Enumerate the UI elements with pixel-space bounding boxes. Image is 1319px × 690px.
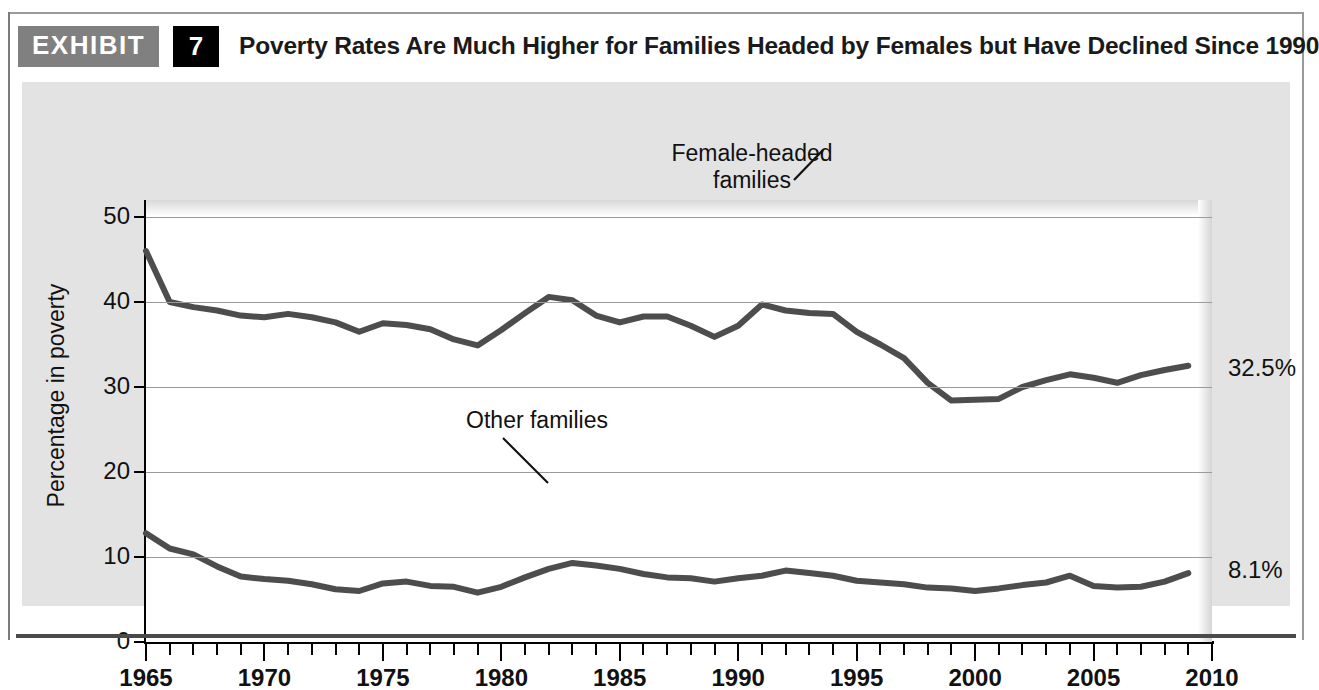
x-axis-tick-major: [145, 644, 147, 661]
x-axis-tick-minor: [477, 644, 479, 655]
female-end-value-label: 32.5%: [1228, 354, 1296, 382]
x-axis-tick-minor: [761, 644, 763, 655]
x-axis-tick-minor: [714, 644, 716, 655]
x-axis-tick-major: [619, 644, 621, 661]
x-axis-tick-minor: [429, 644, 431, 655]
x-axis-tick-label: 1965: [119, 664, 172, 690]
y-axis-tick-label: 0: [80, 627, 130, 655]
female-label-line1: Female-headed: [622, 140, 882, 167]
female-headed-families-line: [146, 251, 1188, 401]
gridline-y: [146, 217, 1212, 218]
x-axis-tick-minor: [785, 644, 787, 655]
y-axis-tick: [134, 216, 146, 218]
gridline-y: [146, 557, 1212, 558]
x-axis-tick-minor: [950, 644, 952, 655]
x-axis-tick-label: 1980: [475, 664, 528, 690]
x-axis-tick-minor: [1069, 644, 1071, 655]
x-axis-tick-minor: [1187, 644, 1189, 655]
y-axis-tick: [134, 556, 146, 558]
bottom-divider-rule: [16, 634, 1296, 638]
y-axis-tick-label: 40: [80, 287, 130, 315]
x-axis-tick-minor: [879, 644, 881, 655]
x-axis-tick-major: [1093, 644, 1095, 661]
y-axis-tick: [134, 471, 146, 473]
frame-top-rule: [8, 12, 1304, 14]
x-axis-tick-label: 1985: [593, 664, 646, 690]
x-axis-tick-minor: [524, 644, 526, 655]
x-axis-tick-label: 1995: [830, 664, 883, 690]
x-axis-tick-minor: [903, 644, 905, 655]
x-axis-tick-minor: [453, 644, 455, 655]
x-axis-tick-label: 2010: [1185, 664, 1238, 690]
x-axis-tick-label: 2005: [1067, 664, 1120, 690]
x-axis-tick-minor: [1116, 644, 1118, 655]
exhibit-title: Poverty Rates Are Much Higher for Famili…: [239, 32, 1319, 60]
y-axis-tick-label: 10: [80, 542, 130, 570]
gridline-y: [146, 472, 1212, 473]
x-axis-tick-minor: [1045, 644, 1047, 655]
x-axis-tick-major: [1211, 644, 1213, 661]
x-axis-tick-major: [263, 644, 265, 661]
x-axis-tick-minor: [240, 644, 242, 655]
y-axis-tick-label: 30: [80, 372, 130, 400]
x-axis-tick-label: 2000: [948, 664, 1001, 690]
x-axis-tick-minor: [1021, 644, 1023, 655]
x-axis-tick-major: [500, 644, 502, 661]
y-axis-tick: [134, 641, 146, 643]
x-axis-tick-minor: [1140, 644, 1142, 655]
x-axis-tick-major: [382, 644, 384, 661]
x-axis-tick-label: 1990: [712, 664, 765, 690]
x-axis-tick-minor: [311, 644, 313, 655]
y-axis-tick-label: 50: [80, 202, 130, 230]
x-axis-tick-minor: [642, 644, 644, 655]
exhibit-number-badge: 7: [173, 26, 219, 67]
x-axis-tick-minor: [690, 644, 692, 655]
female-headed-families-label: Female-headed families: [622, 140, 882, 194]
gridline-y: [146, 302, 1212, 303]
x-axis-tick-minor: [335, 644, 337, 655]
x-axis-tick-major: [974, 644, 976, 661]
exhibit-header: EXHIBIT 7 Poverty Rates Are Much Higher …: [18, 24, 1319, 68]
x-axis-tick-minor: [927, 644, 929, 655]
y-axis-tick: [134, 386, 146, 388]
female-label-line2: families: [622, 167, 882, 194]
other-end-value-label: 8.1%: [1228, 556, 1283, 584]
x-axis-tick-minor: [216, 644, 218, 655]
y-axis-tick: [134, 301, 146, 303]
frame-left-rule: [8, 12, 10, 640]
x-axis-tick-minor: [169, 644, 171, 655]
x-axis-tick-minor: [808, 644, 810, 655]
plot-area: [146, 200, 1212, 642]
x-axis-tick-minor: [358, 644, 360, 655]
x-axis-tick-minor: [666, 644, 668, 655]
y-axis-tick-label: 20: [80, 457, 130, 485]
frame-right-rule: [1302, 12, 1304, 640]
x-axis-tick-minor: [287, 644, 289, 655]
x-axis-tick-minor: [406, 644, 408, 655]
x-axis-tick-major: [737, 644, 739, 661]
x-axis-tick-minor: [832, 644, 834, 655]
y-axis-labels: 01020304050: [66, 82, 130, 606]
exhibit-label-badge: EXHIBIT: [18, 26, 159, 67]
x-axis-tick-minor: [595, 644, 597, 655]
x-axis-tick-major: [856, 644, 858, 661]
x-axis-tick-minor: [998, 644, 1000, 655]
series-lines: [146, 200, 1212, 642]
x-axis-tick-label: 1970: [238, 664, 291, 690]
x-axis-tick-minor: [192, 644, 194, 655]
x-axis-tick-minor: [571, 644, 573, 655]
x-axis-tick-minor: [548, 644, 550, 655]
chart-panel: Percentage in poverty 01020304050 32.5% …: [22, 82, 1290, 606]
x-axis-tick-minor: [1164, 644, 1166, 655]
other-families-line: [146, 533, 1188, 593]
other-families-label: Other families: [422, 407, 652, 434]
x-axis-tick-label: 1975: [356, 664, 409, 690]
gridline-y: [146, 387, 1212, 388]
